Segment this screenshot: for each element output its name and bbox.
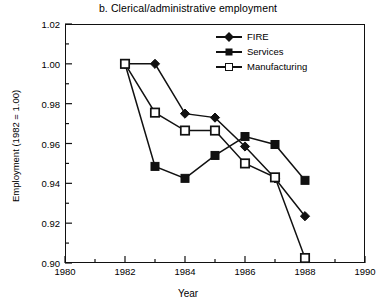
data-point-manufacturing bbox=[151, 108, 159, 116]
x-axis-tick-label: 1984 bbox=[174, 266, 195, 277]
chart-canvas bbox=[0, 0, 376, 306]
legend-item-fire[interactable]: FIRE bbox=[214, 29, 307, 44]
data-point-services bbox=[211, 151, 219, 159]
legend-item-manufacturing[interactable]: Manufacturing bbox=[214, 59, 307, 74]
x-axis-title: Year bbox=[0, 288, 376, 299]
x-axis-tick-label: 1980 bbox=[54, 266, 75, 277]
data-point-manufacturing bbox=[181, 126, 189, 134]
data-point-manufacturing bbox=[211, 126, 219, 134]
data-point-manufacturing bbox=[121, 60, 129, 68]
x-axis-tick-labels: 198019821984198619881990 bbox=[65, 266, 365, 280]
legend-label: Services bbox=[244, 46, 283, 57]
filled-diamond-icon bbox=[224, 32, 234, 42]
legend-item-services[interactable]: Services bbox=[214, 44, 307, 59]
data-point-fire bbox=[180, 109, 189, 118]
data-point-services bbox=[301, 176, 309, 184]
legend-symbol bbox=[214, 44, 244, 59]
chart-legend: FIREServicesManufacturing bbox=[214, 29, 307, 74]
legend-symbol bbox=[214, 29, 244, 44]
data-point-services bbox=[151, 162, 159, 170]
legend-label: FIRE bbox=[244, 31, 269, 42]
chart-figure: b. Clerical/administrative employment 0.… bbox=[0, 0, 376, 306]
data-point-services bbox=[241, 133, 249, 141]
series-line-manufacturing bbox=[125, 64, 305, 258]
filled-square-icon bbox=[226, 48, 233, 55]
data-point-manufacturing bbox=[301, 254, 309, 262]
x-axis-tick-label: 1990 bbox=[354, 266, 375, 277]
open-square-icon bbox=[225, 63, 233, 71]
data-point-fire bbox=[150, 59, 159, 68]
legend-symbol bbox=[214, 59, 244, 74]
data-point-manufacturing bbox=[271, 173, 279, 181]
x-axis-tick-label: 1986 bbox=[234, 266, 255, 277]
legend-label: Manufacturing bbox=[244, 61, 307, 72]
x-axis-tick-label: 1982 bbox=[114, 266, 135, 277]
data-point-services bbox=[271, 140, 279, 148]
x-axis-tick-label: 1988 bbox=[294, 266, 315, 277]
data-point-services bbox=[181, 174, 189, 182]
data-point-manufacturing bbox=[241, 159, 249, 167]
